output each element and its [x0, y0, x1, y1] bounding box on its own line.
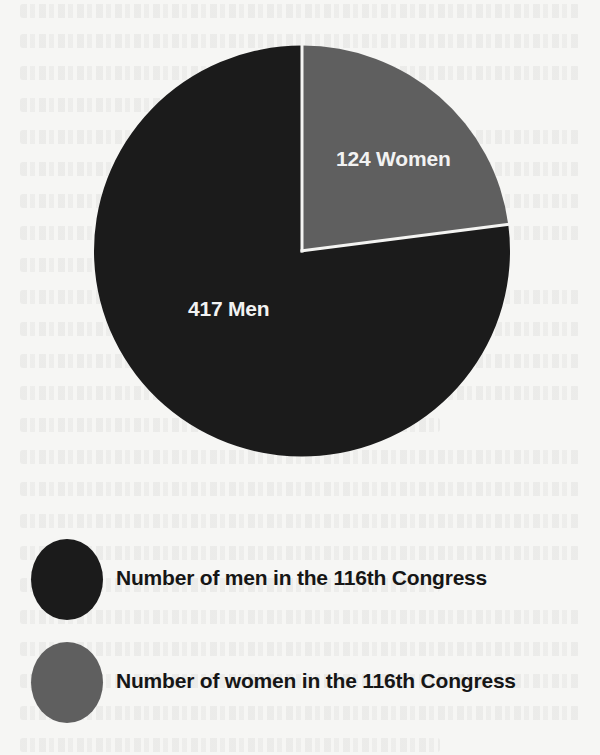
- slice-label-women: 124 Women: [336, 147, 451, 171]
- legend-item-men: Number of men in the 116th Congress: [31, 539, 591, 621]
- legend-label-women: Number of women in the 116th Congress: [116, 668, 516, 694]
- legend-swatch-women-icon: [31, 642, 103, 723]
- legend-swatch-men-icon: [31, 539, 103, 620]
- legend-item-women: Number of women in the 116th Congress: [31, 642, 591, 724]
- legend-label-men: Number of men in the 116th Congress: [116, 565, 487, 591]
- slice-label-men: 417 Men: [188, 297, 269, 321]
